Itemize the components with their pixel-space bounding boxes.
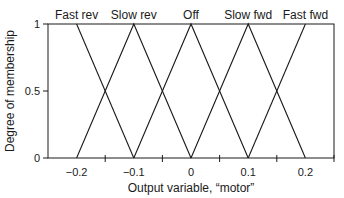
x-axis-label: Output variable, “motor” xyxy=(128,181,255,195)
plot-border xyxy=(48,24,334,158)
series-labels: Fast revSlow revOffSlow fwdFast fwd xyxy=(55,8,328,22)
series-line-slow-rev xyxy=(77,24,191,158)
x-tick-label: 0.1 xyxy=(241,166,256,178)
series-label-fast-rev: Fast rev xyxy=(55,8,98,22)
series-label-slow-rev: Slow rev xyxy=(111,8,157,22)
series-lines xyxy=(77,24,306,158)
y-tick-label: 1 xyxy=(34,18,40,30)
y-axis-label: Degree of membership xyxy=(3,30,17,152)
series-line-off xyxy=(134,24,248,158)
y-tick-label: 0 xyxy=(34,152,40,164)
y-tick-label: 0.5 xyxy=(25,85,40,97)
x-tick-label: 0 xyxy=(188,166,194,178)
series-label-off: Off xyxy=(183,8,199,22)
x-tick-label: 0.2 xyxy=(298,166,313,178)
plot-frame xyxy=(48,24,334,158)
series-label-fast-fwd: Fast fwd xyxy=(283,8,328,22)
x-tick-label: −0.2 xyxy=(66,166,88,178)
series-label-slow-fwd: Slow fwd xyxy=(224,8,272,22)
series-line-slow-fwd xyxy=(191,24,305,158)
y-axis: 00.51 xyxy=(25,18,48,164)
membership-function-chart: Fast revSlow revOffSlow fwdFast fwd −0.2… xyxy=(0,0,344,198)
x-tick-label: −0.1 xyxy=(123,166,145,178)
